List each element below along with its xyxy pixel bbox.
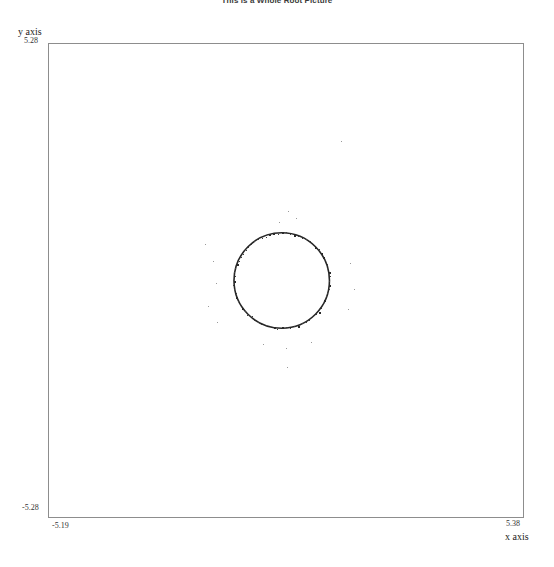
root-point: [236, 293, 237, 294]
root-point: [254, 320, 255, 321]
root-point: [247, 315, 248, 316]
root-point: [246, 250, 247, 251]
root-point: [286, 232, 287, 233]
root-point: [240, 305, 241, 306]
root-outlier-point: [208, 306, 209, 307]
root-point: [329, 281, 330, 282]
root-point: [233, 285, 234, 286]
x-axis-label: x axis: [505, 531, 529, 542]
root-point: [326, 296, 327, 297]
root-point: [306, 239, 307, 240]
root-point: [298, 236, 299, 237]
root-outlier-point: [287, 367, 288, 368]
root-point: [327, 264, 328, 265]
root-point: [282, 232, 284, 234]
plot-area: [48, 43, 524, 518]
root-point: [323, 257, 325, 259]
root-outlier-point: [348, 309, 349, 310]
root-point: [236, 297, 238, 299]
chart-title-clip: This is a Whole Root Picture: [0, 0, 554, 7]
root-outlier-point: [263, 344, 264, 345]
root-point: [298, 326, 300, 328]
root-point: [310, 241, 311, 242]
root-point: [325, 260, 326, 261]
root-point: [329, 289, 330, 290]
root-outlier-point: [341, 141, 342, 142]
root-ring: [48, 43, 524, 518]
root-point: [329, 272, 331, 274]
y-axis-min-tick: -5.28: [22, 503, 39, 512]
root-point: [286, 327, 287, 328]
root-point: [274, 327, 276, 329]
x-axis-min-tick: -5.19: [52, 521, 69, 530]
root-outlier-point: [288, 211, 289, 212]
root-point: [319, 249, 320, 250]
root-point: [245, 311, 246, 312]
root-plot-page: This is a Whole Root Picture y axis 5.28…: [0, 0, 554, 567]
root-point: [258, 239, 259, 240]
root-point: [237, 264, 239, 266]
root-point: [321, 308, 322, 309]
root-outlier-point: [279, 222, 280, 223]
root-point: [235, 268, 236, 269]
root-point: [324, 300, 326, 302]
root-outlier-point: [350, 263, 351, 264]
root-point: [266, 325, 267, 326]
root-point: [294, 326, 295, 327]
root-point: [294, 235, 296, 237]
root-point: [269, 234, 271, 236]
root-point: [277, 329, 278, 330]
root-point: [262, 238, 263, 239]
root-outlier-point: [213, 261, 214, 262]
root-point: [327, 268, 328, 269]
root-outlier-point: [354, 289, 355, 290]
root-point: [261, 324, 262, 325]
root-point: [258, 322, 259, 323]
root-point: [312, 316, 313, 317]
root-point: [238, 301, 239, 302]
root-point: [327, 293, 328, 294]
root-point: [243, 254, 244, 255]
root-outlier-point: [286, 348, 287, 349]
root-point: [312, 244, 313, 245]
root-outlier-point: [311, 342, 312, 343]
root-point: [309, 320, 310, 321]
root-point: [251, 244, 252, 245]
root-point: [323, 304, 324, 305]
root-outlier-point: [217, 322, 218, 323]
root-point: [329, 285, 331, 287]
root-point: [315, 247, 317, 249]
root-point: [234, 289, 235, 290]
root-point: [234, 281, 236, 283]
root-point: [273, 233, 275, 235]
root-outlier-point: [296, 218, 297, 219]
root-outlier-point: [216, 283, 217, 284]
root-point: [266, 237, 267, 238]
root-point: [239, 261, 240, 262]
root-point: [290, 234, 291, 235]
y-axis-max-tick: 5.28: [24, 36, 38, 45]
root-point: [241, 257, 242, 258]
root-point: [330, 276, 331, 277]
root-outlier-point: [205, 244, 206, 245]
root-point: [319, 312, 321, 314]
root-point: [290, 328, 291, 329]
chart-title: This is a Whole Root Picture: [0, 0, 554, 5]
root-point: [306, 322, 307, 323]
root-point: [235, 276, 236, 277]
root-point: [282, 327, 284, 329]
root-point: [234, 272, 235, 273]
root-point: [302, 238, 303, 239]
root-point: [252, 316, 253, 317]
root-point: [316, 314, 317, 315]
root-point: [302, 323, 303, 324]
root-point: [248, 247, 249, 248]
root-point: [242, 308, 244, 310]
root-point: [270, 326, 271, 327]
x-axis-max-tick: 5.38: [506, 519, 520, 528]
root-point: [254, 241, 255, 242]
root-point: [321, 253, 323, 255]
root-point: [278, 234, 279, 235]
